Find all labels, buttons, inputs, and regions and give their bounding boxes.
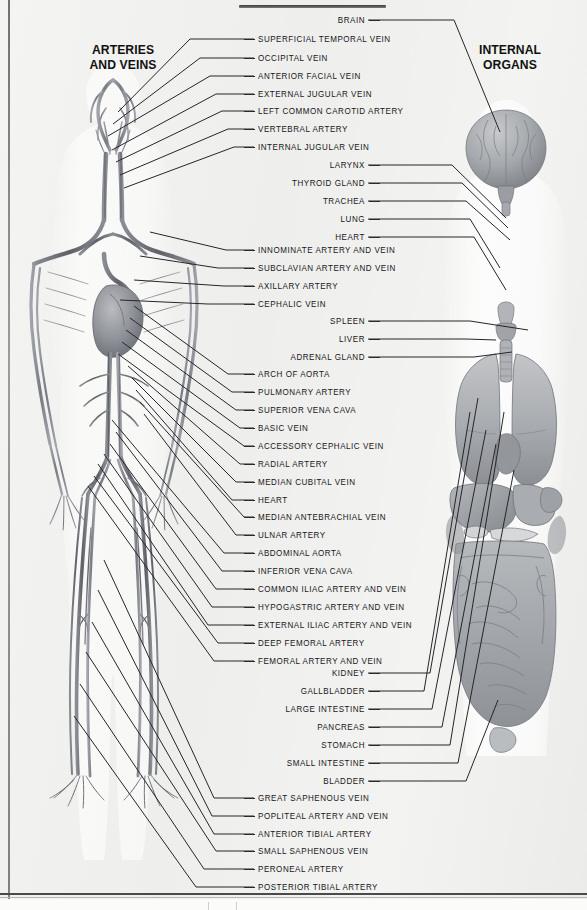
leader-dash-lung [369, 219, 380, 220]
leader-dash-pancreas [369, 727, 380, 728]
top-rule [239, 5, 386, 8]
footer-tick [208, 902, 209, 910]
leader-dash-gallbladder [369, 691, 380, 692]
label-heart: HEART [159, 232, 365, 242]
label-occipital-vein: OCCIPITAL VEIN [258, 53, 328, 63]
label-radial-artery: RADIAL ARTERY [258, 459, 328, 469]
label-pancreas: PANCREAS [159, 722, 365, 732]
label-median-antebrachial-vein: MEDIAN ANTEBRACHIAL VEIN [258, 512, 386, 522]
heading-organs-line1: INTERNAL [461, 42, 560, 57]
leader-dash-left-common-carotid-artery [244, 111, 255, 112]
heading-organs-line2: ORGANS [461, 57, 560, 72]
footer-tick [236, 902, 237, 910]
heading-arteries-and-veins: ARTERIES AND VEINS [74, 42, 173, 72]
leader-dash-small-intestine [369, 763, 380, 764]
leader-dash-external-iliac-artery-and-vein [244, 625, 255, 626]
leader-dash-median-antebrachial-vein [244, 517, 255, 518]
label-gallbladder: GALLBLADDER [159, 686, 365, 696]
label-kidney: KIDNEY [159, 668, 365, 678]
label-superficial-temporal-vein: SUPERFICIAL TEMPORAL VEIN [258, 34, 391, 44]
leader-dash-larynx [369, 165, 380, 166]
leader-dash-basic-vein [244, 428, 255, 429]
label-cephalic-vein: CEPHALIC VEIN [258, 299, 326, 309]
leader-dash-large-intestine [369, 709, 380, 710]
label-innominate-artery-and-vein: INNOMINATE ARTERY AND VEIN [258, 245, 395, 255]
leader-dash-thyroid-gland [369, 183, 380, 184]
leader-dash-posterior-tibial-artery [244, 887, 255, 888]
label-trachea: TRACHEA [159, 196, 365, 206]
label-heart: HEART [258, 495, 288, 505]
label-large-intestine: LARGE INTESTINE [159, 704, 365, 714]
footer-band [0, 899, 587, 910]
leader-dash-innominate-artery-and-vein [244, 250, 255, 251]
leader-dash-spleen [369, 321, 380, 322]
label-hypogastric-artery-and-vein: HYPOGASTRIC ARTERY AND VEIN [258, 602, 405, 612]
leader-dash-subclavian-artery-and-vein [244, 268, 255, 269]
label-great-saphenous-vein: GREAT SAPHENOUS VEIN [258, 793, 369, 803]
label-basic-vein: BASIC VEIN [258, 423, 308, 433]
leader-dash-accessory-cephalic-vein [244, 446, 255, 447]
leader-dash-superficial-temporal-vein [244, 39, 255, 40]
leader-dash-trachea [369, 201, 380, 202]
label-ulnar-artery: ULNAR ARTERY [258, 530, 326, 540]
label-subclavian-artery-and-vein: SUBCLAVIAN ARTERY AND VEIN [258, 263, 396, 273]
bottom-rule-secondary [0, 897, 587, 898]
leader-dash-adrenal-gland [369, 357, 380, 358]
leader-dash-kidney [369, 673, 380, 674]
leader-dash-inferior-vena-cava [244, 571, 255, 572]
label-deep-femoral-artery: DEEP FEMORAL ARTERY [258, 638, 365, 648]
leader-dash-heart [244, 500, 255, 501]
leader-dash-abdominal-aorta [244, 553, 255, 554]
label-thyroid-gland: THYROID GLAND [159, 178, 365, 188]
leader-dash-small-saphenous-vein [244, 851, 255, 852]
leader-dash-arch-of-aorta [244, 374, 255, 375]
page-left-border [8, 0, 10, 910]
label-arch-of-aorta: ARCH OF AORTA [258, 369, 330, 379]
label-abdominal-aorta: ABDOMINAL AORTA [258, 548, 342, 558]
label-larynx: LARYNX [159, 160, 365, 170]
gallbladder-shape [464, 526, 488, 538]
leader-dash-external-jugular-vein [244, 94, 255, 95]
leader-dash-occipital-vein [244, 58, 255, 59]
heading-arteries-line2: AND VEINS [74, 57, 173, 72]
leader-dash-cephalic-vein [244, 304, 255, 305]
leader-dash-superior-vena-cava [244, 410, 255, 411]
label-bladder: BLADDER [159, 776, 365, 786]
label-inferior-vena-cava: INFERIOR VENA CAVA [258, 566, 353, 576]
label-internal-jugular-vein: INTERNAL JUGULAR VEIN [258, 142, 369, 152]
label-lung: LUNG [159, 214, 365, 224]
label-vertebral-artery: VERTEBRAL ARTERY [258, 124, 348, 134]
leader-dash-anterior-facial-vein [244, 76, 255, 77]
label-femoral-artery-and-vein: FEMORAL ARTERY AND VEIN [258, 656, 382, 666]
label-left-common-carotid-artery: LEFT COMMON CAROTID ARTERY [258, 106, 404, 116]
bottom-rule [0, 893, 587, 895]
label-peroneal-artery: PERONEAL ARTERY [258, 864, 344, 874]
leader-dash-axillary-artery [244, 286, 255, 287]
leader-dash-brain [369, 20, 380, 21]
label-adrenal-gland: ADRENAL GLAND [159, 352, 365, 362]
leader-dash-popliteal-artery-and-vein [244, 816, 255, 817]
leader-dash-heart [369, 237, 380, 238]
leader-dash-deep-femoral-artery [244, 643, 255, 644]
label-liver: LIVER [159, 334, 365, 344]
label-popliteal-artery-and-vein: POPLITEAL ARTERY AND VEIN [258, 811, 388, 821]
leader-dash-anterior-tibial-artery [244, 834, 255, 835]
heading-arteries-line1: ARTERIES [74, 42, 173, 57]
leader-dash-stomach [369, 745, 380, 746]
label-external-jugular-vein: EXTERNAL JUGULAR VEIN [258, 89, 372, 99]
leader-dash-liver [369, 339, 380, 340]
label-superior-vena-cava: SUPERIOR VENA CAVA [258, 405, 356, 415]
leader-dash-great-saphenous-vein [244, 798, 255, 799]
internal-organs-figure [432, 96, 580, 772]
leader-dash-median-cubital-vein [244, 482, 255, 483]
label-median-cubital-vein: MEDIAN CUBITAL VEIN [258, 477, 356, 487]
label-posterior-tibial-artery: POSTERIOR TIBIAL ARTERY [258, 882, 378, 892]
leader-dash-vertebral-artery [244, 129, 255, 130]
label-small-intestine: SMALL INTESTINE [159, 758, 365, 768]
label-spleen: SPLEEN [159, 316, 365, 326]
label-external-iliac-artery-and-vein: EXTERNAL ILIAC ARTERY AND VEIN [258, 620, 412, 630]
heading-internal-organs: INTERNAL ORGANS [461, 42, 560, 72]
label-pulmonary-artery: PULMONARY ARTERY [258, 387, 351, 397]
label-brain: BRAIN [159, 15, 365, 25]
leader-dash-pulmonary-artery [244, 392, 255, 393]
